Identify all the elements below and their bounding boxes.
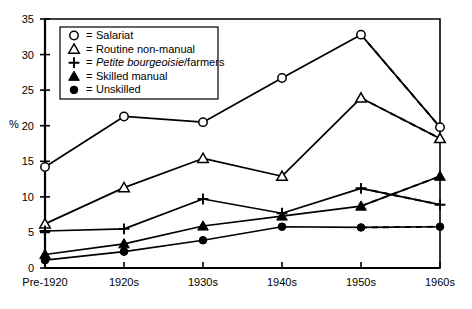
chart-container: 05101520253035 Pre-19201920s1930s1940s19…: [0, 0, 472, 309]
y-tick-label: 0: [28, 262, 34, 274]
y-tick-label: 25: [22, 84, 34, 96]
x-tick-label: Pre-1920: [22, 276, 67, 288]
legend-label: Routine non-manual: [96, 43, 195, 55]
data-point-plus: [356, 183, 367, 194]
chart-legend: =Salariat=Routine non-manual=Petite bour…: [60, 27, 225, 99]
line-chart: 05101520253035 Pre-19201920s1930s1940s19…: [0, 0, 472, 309]
series-2: [40, 183, 446, 236]
data-point-filled-circle: [199, 236, 207, 244]
legend-item-2[interactable]: =Petite bourgeoisie/farmers: [69, 56, 225, 68]
legend-label: Unskilled: [96, 83, 141, 95]
y-tick-label: 35: [22, 13, 34, 25]
x-tick-label: 1920s: [109, 276, 139, 288]
legend-marker-open-circle: [70, 31, 78, 39]
legend-equals: =: [86, 70, 92, 82]
legend-label: Salariat: [96, 29, 133, 41]
data-point-plus: [435, 199, 446, 210]
y-tick-label: 15: [22, 155, 34, 167]
data-point-open-circle: [436, 123, 444, 131]
x-tick-label: 1960s: [425, 276, 455, 288]
legend-label: Petite bourgeoisie/farmers: [96, 56, 225, 68]
series-line-solid: [45, 176, 440, 254]
data-point-filled-circle: [357, 224, 365, 232]
x-axis-tick-group: Pre-19201920s1930s1940s1950s1960s: [22, 262, 455, 288]
data-point-open-circle: [120, 112, 128, 120]
data-point-open-circle: [199, 118, 207, 126]
series-line-solid: [45, 227, 440, 260]
legend-equals: =: [86, 29, 92, 41]
series-line-solid: [45, 98, 440, 224]
data-point-open-triangle: [435, 133, 446, 142]
legend-equals: =: [86, 56, 92, 68]
series-line-solid: [45, 188, 440, 231]
data-point-filled-circle: [278, 223, 286, 231]
x-tick-label: 1930s: [188, 276, 218, 288]
data-point-open-circle: [278, 74, 286, 82]
series-3: [40, 171, 446, 259]
data-point-open-triangle: [356, 93, 367, 102]
legend-label-italic: Petite bourgeoisie: [96, 56, 184, 68]
legend-label-tail: /farmers: [184, 56, 225, 68]
data-point-open-circle: [41, 163, 49, 171]
series-1: [40, 93, 446, 228]
data-point-filled-triangle: [435, 171, 446, 180]
data-point-open-circle: [357, 30, 365, 38]
y-tick-label: 10: [22, 191, 34, 203]
legend-marker-filled-circle: [70, 86, 78, 94]
legend-label: Skilled manual: [96, 70, 168, 82]
legend-equals: =: [86, 43, 92, 55]
y-tick-label: 30: [22, 49, 34, 61]
data-point-open-triangle: [198, 153, 209, 162]
x-tick-label: 1950s: [346, 276, 376, 288]
y-axis-title: %: [9, 118, 19, 130]
y-tick-label: 5: [28, 226, 34, 238]
data-point-filled-circle: [41, 256, 49, 264]
data-point-filled-circle: [120, 248, 128, 256]
x-tick-label: 1940s: [267, 276, 297, 288]
data-point-plus: [198, 194, 209, 205]
legend-item-1[interactable]: =Routine non-manual: [69, 43, 195, 55]
y-tick-label: 20: [22, 120, 34, 132]
data-point-plus: [119, 223, 130, 234]
legend-equals: =: [86, 83, 92, 95]
data-point-filled-circle: [436, 223, 444, 231]
